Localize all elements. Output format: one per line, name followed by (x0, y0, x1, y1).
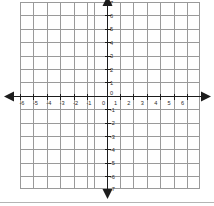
y-tick-label: -7 (110, 186, 115, 192)
x-tick-label: -5 (33, 100, 38, 106)
x-tick-label: -2 (73, 100, 78, 106)
x-tick-label: 2 (127, 100, 130, 106)
x-tick-label: -4 (46, 100, 51, 106)
x-tick-label: 6 (181, 100, 184, 106)
x-tick-label: 3 (141, 100, 144, 106)
y-tick-label: 3 (110, 53, 113, 59)
x-tick-label: -6 (20, 100, 25, 106)
x-tick-label: 5 (168, 100, 171, 106)
y-tick-label: 4 (110, 40, 113, 46)
y-tick-label: -2 (110, 120, 115, 126)
x-tick-label-zero: 0 (102, 100, 105, 106)
y-tick-label: -4 (110, 147, 115, 153)
y-tick-label-zero: 0 (110, 90, 113, 96)
y-tick-label: 1 (110, 80, 113, 86)
y-tick-label: -3 (110, 134, 115, 140)
y-tick-label: -5 (110, 160, 115, 166)
x-tick-label: 4 (154, 100, 157, 106)
x-tick-label: -3 (60, 100, 65, 106)
y-tick-label: 5 (110, 26, 113, 32)
y-tick-label: 6 (110, 13, 113, 19)
x-tick-label: 1 (114, 100, 117, 106)
x-tick-label: -1 (87, 100, 92, 106)
coordinate-grid-svg: -6 -5 -4 -3 -2 -1 0 1 2 3 4 5 6 (0, 0, 214, 206)
y-tick-label: 2 (110, 67, 113, 73)
coordinate-plane-figure: -6 -5 -4 -3 -2 -1 0 1 2 3 4 5 6 (0, 0, 214, 206)
y-tick-label: -6 (110, 174, 115, 180)
y-tick-label: -1 (110, 107, 115, 113)
y-tick-label: 7 (110, 0, 113, 6)
